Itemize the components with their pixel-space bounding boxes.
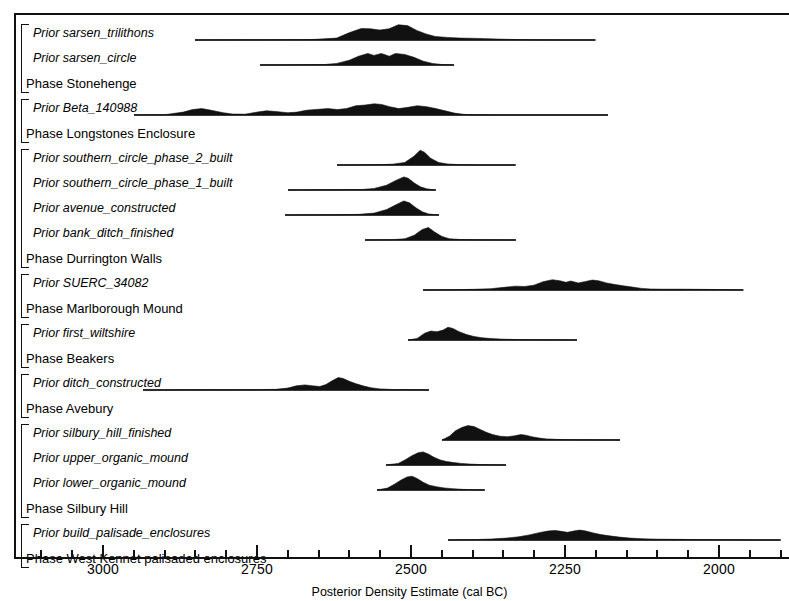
posterior-density-curve xyxy=(195,21,595,46)
prior-label: Prior Beta_140988 xyxy=(33,96,137,121)
phase-label: Phase Beakers xyxy=(26,346,114,371)
x-axis-tick-label: 2250 xyxy=(549,561,581,577)
prior-label: Prior silbury_hill_finished xyxy=(33,421,171,446)
x-axis-minor-tick xyxy=(194,550,196,558)
density-fill xyxy=(442,426,621,440)
density-fill xyxy=(386,452,506,465)
prior-row[interactable]: Prior Beta_140988 xyxy=(0,96,789,121)
prior-label: Prior sarsen_circle xyxy=(33,46,137,71)
phase-row[interactable]: Phase Beakers xyxy=(0,346,789,371)
posterior-density-curve xyxy=(337,146,516,171)
x-axis-minor-tick xyxy=(164,550,166,558)
posterior-density-curve xyxy=(423,271,743,296)
phase-row[interactable]: Phase Silbury Hill xyxy=(0,496,789,521)
x-axis-minor-tick xyxy=(348,550,350,558)
phase-label: Phase Marlborough Mound xyxy=(26,296,183,321)
prior-label: Prior southern_circle_phase_1_built xyxy=(33,171,232,196)
x-axis-minor-tick xyxy=(780,550,782,558)
prior-row[interactable]: Prior upper_organic_mound xyxy=(0,446,789,471)
posterior-density-curve xyxy=(365,221,516,246)
density-fill xyxy=(143,378,429,390)
posterior-density-curve xyxy=(285,196,439,221)
x-axis-major-tick xyxy=(718,545,721,558)
x-axis-tick-label: 3000 xyxy=(87,561,119,577)
x-axis-minor-tick xyxy=(40,550,42,558)
phase-label: Phase Stonehenge xyxy=(26,71,137,96)
prior-label: Prior southern_circle_phase_2_built xyxy=(33,146,232,171)
x-axis-minor-tick xyxy=(533,550,535,558)
prior-row[interactable]: Prior ditch_constructed xyxy=(0,371,789,396)
prior-label: Prior upper_organic_mound xyxy=(33,446,188,471)
x-axis-minor-tick xyxy=(287,550,289,558)
prior-row[interactable]: Prior sarsen_trilithons xyxy=(0,21,789,46)
phase-row[interactable]: Phase Durrington Walls xyxy=(0,246,789,271)
x-axis-minor-tick xyxy=(225,550,227,558)
prior-label: Prior ditch_constructed xyxy=(33,371,161,396)
phase-label: Phase Avebury xyxy=(26,396,113,421)
posterior-density-curve xyxy=(260,46,454,71)
density-fill xyxy=(337,150,516,165)
prior-row[interactable]: Prior southern_circle_phase_2_built xyxy=(0,146,789,171)
prior-row[interactable]: Prior lower_organic_mound xyxy=(0,471,789,496)
x-axis-minor-tick xyxy=(133,550,135,558)
density-fill xyxy=(377,476,485,490)
prior-row[interactable]: Prior first_wiltshire xyxy=(0,321,789,346)
density-fill xyxy=(288,177,436,190)
posterior-density-curve xyxy=(408,321,577,346)
posterior-density-curve xyxy=(288,171,436,196)
prior-label: Prior lower_organic_mound xyxy=(33,471,186,496)
phase-label: Phase Silbury Hill xyxy=(26,496,128,521)
density-fill xyxy=(195,25,595,40)
posterior-density-curve xyxy=(377,471,485,496)
density-fill xyxy=(365,228,516,240)
prior-label: Prior build_palisade_enclosures xyxy=(33,521,210,546)
phase-label: Phase Durrington Walls xyxy=(26,246,162,271)
density-fill xyxy=(134,104,608,115)
posterior-density-curve xyxy=(442,421,621,446)
prior-label: Prior first_wiltshire xyxy=(33,321,135,346)
density-fill xyxy=(260,53,454,65)
phase-row[interactable]: Phase Longstones Enclosure xyxy=(0,121,789,146)
phase-row[interactable]: Phase Avebury xyxy=(0,396,789,421)
posterior-density-curve xyxy=(134,96,608,121)
density-fill xyxy=(448,530,781,540)
prior-row[interactable]: Prior bank_ditch_finished xyxy=(0,221,789,246)
x-axis-major-tick xyxy=(564,545,567,558)
prior-row[interactable]: Prior build_palisade_enclosures xyxy=(0,521,789,546)
x-axis-minor-tick xyxy=(749,550,751,558)
prior-row[interactable]: Prior SUERC_34082 xyxy=(0,271,789,296)
prior-label: Prior SUERC_34082 xyxy=(33,271,148,296)
prior-row[interactable]: Prior southern_circle_phase_1_built xyxy=(0,171,789,196)
density-fill xyxy=(408,327,577,340)
prior-row[interactable]: Prior avenue_constructed xyxy=(0,196,789,221)
x-axis-minor-tick xyxy=(626,550,628,558)
posterior-density-curve xyxy=(143,371,429,396)
posterior-density-curve xyxy=(448,521,781,546)
phase-row[interactable]: Phase Stonehenge xyxy=(0,71,789,96)
x-axis-minor-tick xyxy=(595,550,597,558)
x-axis-tick-label: 2500 xyxy=(395,561,427,577)
density-fill xyxy=(423,280,743,290)
x-axis-tick-label: 2750 xyxy=(241,561,273,577)
prior-label: Prior avenue_constructed xyxy=(33,196,175,221)
x-axis-major-tick xyxy=(256,545,259,558)
phase-row[interactable]: Phase Marlborough Mound xyxy=(0,296,789,321)
x-axis-minor-tick xyxy=(379,550,381,558)
posterior-density-plot: Prior sarsen_trilithonsPrior sarsen_circ… xyxy=(0,0,789,601)
prior-label: Prior bank_ditch_finished xyxy=(33,221,173,246)
x-axis-minor-tick xyxy=(71,550,73,558)
x-axis-major-tick xyxy=(102,545,105,558)
x-axis-minor-tick xyxy=(318,550,320,558)
x-axis-title: Posterior Density Estimate (cal BC) xyxy=(0,585,789,599)
density-fill xyxy=(285,201,439,215)
x-axis-minor-tick xyxy=(441,550,443,558)
posterior-density-curve xyxy=(386,446,506,471)
x-axis-minor-tick xyxy=(502,550,504,558)
x-axis-minor-tick xyxy=(472,550,474,558)
prior-label: Prior sarsen_trilithons xyxy=(33,21,154,46)
x-axis-title-text: Posterior Density Estimate (cal BC) xyxy=(282,585,508,599)
x-axis-line xyxy=(14,557,789,559)
prior-row[interactable]: Prior sarsen_circle xyxy=(0,46,789,71)
x-axis-major-tick xyxy=(410,545,413,558)
prior-row[interactable]: Prior silbury_hill_finished xyxy=(0,421,789,446)
